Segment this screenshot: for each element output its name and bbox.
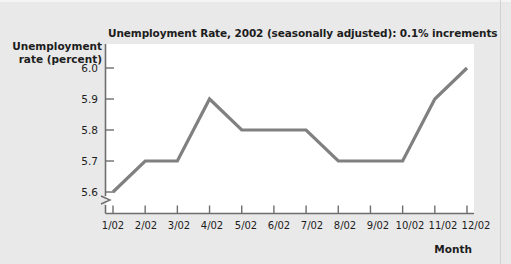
chart-figure: Unemployment Rate, 2002 (seasonally adju… — [0, 0, 511, 264]
x-tick-marks — [113, 206, 467, 214]
chart-canvas — [0, 0, 511, 264]
axis-break-marker — [101, 196, 110, 204]
y-tick-marks — [106, 68, 114, 192]
data-series-line — [113, 68, 467, 192]
